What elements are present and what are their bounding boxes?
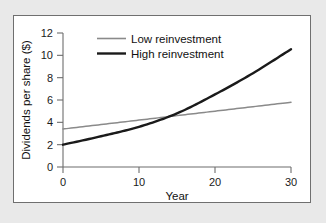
x-axis-tick-labels: 0 10 20 30 bbox=[60, 176, 297, 188]
y-tick-label-0: 0 bbox=[47, 161, 53, 173]
x-tick-label-10: 10 bbox=[133, 176, 145, 188]
x-axis-ticks bbox=[63, 167, 291, 173]
x-tick-label-20: 20 bbox=[209, 176, 221, 188]
line-chart: 12 10 8 6 4 2 0 0 10 20 30 bbox=[14, 16, 312, 204]
legend-label-low-reinvestment: Low reinvestment bbox=[131, 33, 222, 45]
y-tick-label-4: 4 bbox=[47, 116, 53, 128]
y-axis-tick-labels: 12 10 8 6 4 2 0 bbox=[41, 27, 53, 173]
low-reinvestment-line bbox=[63, 102, 291, 129]
chart-panel: 12 10 8 6 4 2 0 0 10 20 30 bbox=[13, 15, 311, 203]
chart-legend: Low reinvestment High reinvestment bbox=[97, 33, 224, 60]
legend-label-high-reinvestment: High reinvestment bbox=[131, 48, 224, 60]
x-tick-label-30: 30 bbox=[285, 176, 297, 188]
x-tick-label-0: 0 bbox=[60, 176, 66, 188]
x-axis-title: Year bbox=[165, 190, 188, 202]
y-tick-label-6: 6 bbox=[47, 94, 53, 106]
y-tick-label-8: 8 bbox=[47, 72, 53, 84]
y-tick-label-10: 10 bbox=[41, 49, 53, 61]
high-reinvestment-line bbox=[63, 49, 291, 144]
y-tick-label-12: 12 bbox=[41, 27, 53, 39]
figure-root: 12 10 8 6 4 2 0 0 10 20 30 bbox=[0, 0, 326, 223]
y-axis-title: Dividends per share ($) bbox=[20, 40, 32, 160]
y-tick-label-2: 2 bbox=[47, 139, 53, 151]
y-axis-ticks bbox=[57, 33, 63, 167]
